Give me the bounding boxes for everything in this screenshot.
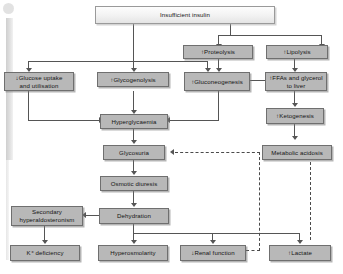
node-gluconeogenesis[interactable]: ↑Gluconeogenesis — [184, 72, 250, 91]
arrowhead-osmotic-diuresis — [131, 171, 137, 175]
edge-insulin-bus-left — [28, 61, 208, 62]
arrowhead-glycosuria-feedback — [170, 149, 174, 155]
node-glycosuria[interactable]: Glycosuria — [103, 145, 165, 160]
node-hyperglycaemia[interactable]: Hyperglycaemia — [100, 114, 168, 129]
node-label: ↓Renal function — [191, 249, 235, 257]
arrowhead-dehydration — [131, 203, 137, 207]
node-label: Dehydration — [117, 212, 151, 220]
node-metabolic-acidosis[interactable]: Metabolic acidosis — [262, 145, 332, 160]
node-label: Hyperglycaemia — [111, 118, 156, 126]
node-dehydration[interactable]: Dehydration — [99, 208, 169, 224]
node-secondary-hyperaldosteronism[interactable]: Secondary hyperaldosteronism — [11, 206, 83, 226]
node-ffas-glycerol[interactable]: ↑FFAs and glycerol to liver — [265, 72, 327, 91]
node-label: ↑Lipolysis — [283, 48, 310, 56]
edge-renal-dashed-right — [246, 250, 260, 251]
edge-secondary-k-deficiency — [44, 226, 45, 241]
node-label: ↑Lactate — [288, 249, 312, 257]
node-label: Metabolic acidosis — [271, 149, 323, 157]
node-label-line1: ↑FFAs and glycerol — [269, 74, 323, 82]
node-lipolysis[interactable]: ↑Lipolysis — [266, 45, 328, 59]
edge-gluconeogenesis-down — [218, 91, 219, 121]
flowchart-canvas: Insufficient insulin ↑Proteolysis ↑Lipol… — [0, 0, 343, 274]
node-glycogenolysis[interactable]: ↑Glycogenolysis — [97, 72, 169, 87]
node-label: ↑Glycogenolysis — [110, 76, 156, 84]
arrowhead-lactate — [297, 240, 303, 244]
node-label: ↑Proteolysis — [201, 48, 235, 56]
node-label: ↑Ketogenesis — [276, 112, 314, 120]
node-ketogenesis[interactable]: ↑Ketogenesis — [266, 108, 324, 124]
edge-lactate-dashed-up — [310, 152, 311, 240]
edge-glucose-uptake-right — [28, 120, 100, 121]
node-k-deficiency[interactable]: K⁺ deficiency — [10, 245, 80, 261]
edge-glycogenolysis-hyperglycaemia — [133, 91, 134, 111]
arrowhead-k-deficiency — [42, 240, 48, 244]
page-corner-artifact — [3, 3, 14, 14]
page-edge-shadow-lower — [6, 160, 9, 260]
arrowhead-glycosuria — [131, 140, 137, 144]
node-label-line1: Secondary — [32, 208, 62, 216]
node-insufficient-insulin[interactable]: Insufficient insulin — [95, 6, 275, 24]
arrowhead-hyperosmolarity — [131, 240, 137, 244]
node-glucose-uptake[interactable]: ↓Glucose uptake and utilisation — [4, 72, 74, 91]
edge-insulin-bus-right — [218, 35, 322, 36]
node-renal-function[interactable]: ↓Renal function — [180, 245, 246, 261]
edge-renal-dashed-up — [259, 152, 260, 251]
arrowhead-metabolic-acidosis — [292, 136, 298, 140]
node-label: Glycosuria — [119, 149, 149, 157]
arrowhead-renal-function — [210, 240, 216, 244]
node-label-line1: ↓Glucose uptake — [16, 74, 63, 82]
edge-renal-dashed-left — [175, 152, 260, 153]
node-label: Insufficient insulin — [160, 11, 210, 19]
node-label: Osmotic diuresis — [111, 180, 158, 188]
edge-dehydration-bus — [133, 233, 300, 234]
arrowhead-ketogenesis — [292, 103, 298, 107]
node-label: K⁺ deficiency — [26, 249, 63, 257]
node-lactate[interactable]: ↑Lactate — [269, 245, 331, 261]
node-hyperosmolarity[interactable]: Hyperosmolarity — [98, 245, 168, 261]
edge-insulin-stem-left — [133, 24, 134, 62]
node-osmotic-diuresis[interactable]: Osmotic diuresis — [100, 176, 168, 191]
node-label-line2: to liver — [287, 82, 306, 90]
node-label-line2: and utilisation — [20, 82, 59, 90]
node-label: Hyperosmolarity — [110, 249, 156, 257]
node-label: ↑Gluconeogenesis — [191, 78, 243, 86]
edge-gluconeogenesis-left — [170, 120, 219, 121]
node-proteolysis[interactable]: ↑Proteolysis — [183, 45, 253, 59]
edge-glucose-uptake-down — [28, 91, 29, 121]
node-label-line2: hyperaldosteronism — [20, 216, 75, 224]
